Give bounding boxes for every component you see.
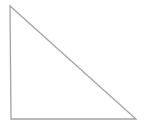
right-triangle-shape [10,6,136,119]
triangle-diagram [0,0,150,130]
